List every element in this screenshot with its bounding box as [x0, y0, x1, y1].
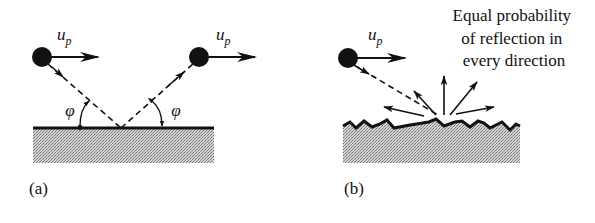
scatter-arrow-up-right: [450, 82, 477, 115]
annotation-line-2: of reflection in: [461, 29, 563, 48]
incoming-direction-arrow-b: [357, 67, 369, 74]
outgoing-direction-arrow: [168, 72, 184, 86]
angle-label-reflected: φ: [171, 101, 180, 120]
angle-label-incoming: φ: [65, 101, 74, 120]
caption-a: (a): [29, 179, 48, 198]
angle-arc-reflected: [152, 101, 162, 126]
panel-b: up Equal probability of reflection in ev…: [338, 6, 575, 198]
velocity-label-reflected: up: [216, 25, 231, 48]
reflection-diagram: up up φ φ (a) up: [0, 0, 595, 223]
scattered-reflection-arrows: [384, 76, 494, 116]
particle-reflected-icon: [189, 47, 209, 67]
annotation-text: Equal probability of reflection in every…: [453, 6, 576, 70]
caption-b: (b): [344, 179, 364, 198]
scatter-arrow-right: [456, 107, 494, 114]
velocity-label-incoming: up: [57, 25, 72, 48]
panel-a: up up φ φ (a): [29, 25, 255, 198]
smooth-surface-block: [33, 128, 214, 163]
velocity-label-incoming-b: up: [368, 25, 383, 48]
scatter-arrow-left: [384, 107, 424, 116]
incoming-direction-arrow: [52, 67, 63, 77]
annotation-line-3: every direction: [463, 51, 566, 70]
angle-arc-incoming: [80, 101, 89, 126]
annotation-line-1: Equal probability: [453, 6, 572, 25]
